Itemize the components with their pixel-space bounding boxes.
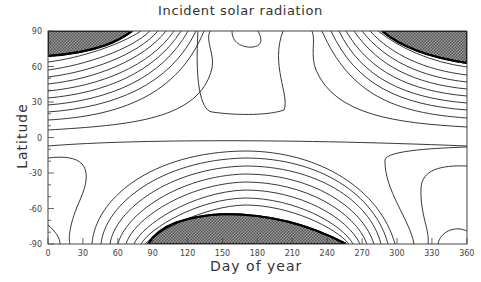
- x-tick-label: 30: [78, 249, 88, 258]
- polar-night-north-left: [48, 31, 132, 56]
- x-tick-label: 180: [250, 249, 265, 258]
- y-tick-label: 90: [32, 27, 42, 36]
- x-tick-label: 120: [180, 249, 195, 258]
- x-tick-labels: 0 30 60 90 120 150 180 210 240 270 300 3…: [45, 249, 474, 258]
- y-tick-label: -30: [29, 169, 42, 178]
- y-tick-label: -60: [29, 205, 42, 214]
- y-tick-label: 60: [32, 63, 42, 72]
- y-tick-label: 0: [37, 134, 42, 143]
- y-tick-label: -90: [29, 240, 42, 249]
- x-tick-label: 300: [389, 249, 404, 258]
- x-tick-label: 360: [459, 249, 474, 258]
- plot-frame: [48, 31, 467, 244]
- plot-area: [48, 31, 467, 244]
- x-tick-label: 330: [424, 249, 439, 258]
- x-tick-label: 210: [285, 249, 300, 258]
- x-tick-label: 240: [320, 249, 335, 258]
- y-tick-labels: 90 60 30 0 -30 -60 -90: [29, 27, 42, 249]
- y-axis-ticks: [48, 31, 54, 244]
- contour-plot: 90 60 30 0 -30 -60 -90 0 30 60 90 120 15…: [0, 0, 481, 282]
- x-tick-label: 150: [215, 249, 230, 258]
- polar-night-south: [148, 214, 346, 244]
- x-tick-label: 270: [354, 249, 369, 258]
- y-axis-label: Latitude: [14, 96, 30, 176]
- x-tick-label: 0: [45, 249, 50, 258]
- polar-night-north-right: [382, 31, 467, 63]
- x-axis-label: Day of year: [210, 258, 302, 274]
- x-tick-label: 60: [113, 249, 123, 258]
- y-tick-label: 30: [32, 98, 42, 107]
- x-tick-label: 90: [148, 249, 158, 258]
